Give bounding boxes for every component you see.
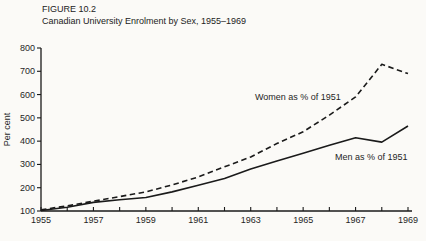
women-series-label: Women as % of 1951	[255, 92, 341, 102]
men-series-label: Men as % of 1951	[335, 152, 408, 162]
y-tick-label: 300	[20, 159, 35, 169]
x-tick-label: 1955	[31, 215, 51, 225]
x-tick-label: 1965	[293, 215, 313, 225]
figure-header: FIGURE 10.2 Canadian University Enrolmen…	[42, 3, 246, 27]
x-tick-label: 1959	[136, 215, 156, 225]
x-tick-label: 1967	[346, 215, 366, 225]
y-tick-label: 200	[20, 183, 35, 193]
figure-title: Canadian University Enrolment by Sex, 19…	[42, 15, 246, 27]
figure-label: FIGURE 10.2	[42, 3, 246, 15]
y-tick-label: 400	[20, 136, 35, 146]
figure-10-2: FIGURE 10.2 Canadian University Enrolmen…	[0, 0, 426, 241]
y-tick-label: 500	[20, 113, 35, 123]
enrolment-line-chart: 1002003004005006007008001955195719591961…	[0, 0, 426, 241]
men-series-line	[41, 126, 408, 211]
x-tick-label: 1961	[188, 215, 208, 225]
y-axis-label: Per cent	[2, 112, 12, 146]
x-tick-label: 1963	[241, 215, 261, 225]
x-tick-label: 1969	[398, 215, 418, 225]
x-tick-label: 1957	[83, 215, 103, 225]
women-series-line	[41, 64, 408, 210]
y-tick-label: 800	[20, 43, 35, 53]
y-tick-label: 700	[20, 66, 35, 76]
y-tick-label: 600	[20, 90, 35, 100]
